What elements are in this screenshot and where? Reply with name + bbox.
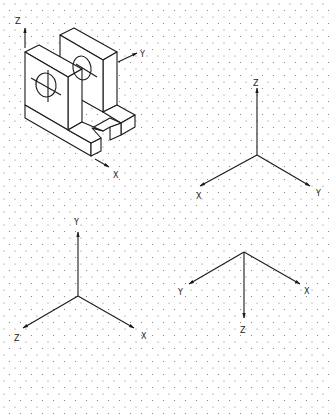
x-label: X — [304, 287, 310, 296]
object-x-label: X — [113, 171, 119, 180]
x-axis — [78, 296, 134, 328]
object-y-axis — [118, 53, 137, 62]
x-label: X — [141, 332, 147, 341]
y-label: Y — [315, 189, 321, 198]
y-axis — [189, 252, 244, 284]
object-z-label: Z — [15, 17, 21, 26]
z-axis — [23, 296, 78, 328]
axes-upper-right: Z X Y — [196, 79, 321, 201]
object-x-axis — [95, 159, 109, 167]
x-axis — [244, 252, 300, 284]
y-axis — [257, 155, 310, 186]
object-y-label: Y — [139, 50, 145, 59]
z-label: Z — [14, 334, 20, 343]
front-plate-side — [68, 69, 82, 130]
x-axis — [200, 155, 257, 186]
axes-lower-left: Y Z X — [14, 218, 147, 343]
back-plate-side — [103, 52, 117, 112]
y-label: Y — [177, 288, 183, 297]
y-label: Y — [73, 218, 79, 227]
z-label: Z — [240, 326, 246, 335]
z-label: Z — [253, 79, 259, 88]
isometric-object: Z Y X — [15, 17, 145, 180]
isometric-worksheet: Z Y X Z X Y Y Z X Z Y X — [0, 0, 334, 415]
x-label: X — [196, 192, 202, 201]
